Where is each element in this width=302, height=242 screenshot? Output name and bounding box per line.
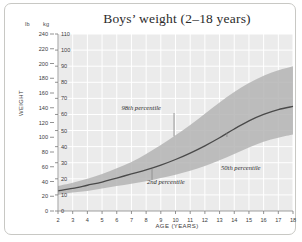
svg-text:50th percentile: 50th percentile: [221, 164, 261, 171]
svg-text:9: 9: [159, 217, 162, 223]
svg-text:200: 200: [39, 61, 48, 67]
svg-text:15: 15: [246, 217, 252, 223]
svg-text:18: 18: [290, 217, 296, 223]
svg-text:14: 14: [231, 217, 237, 223]
svg-text:40: 40: [42, 179, 48, 185]
svg-text:110: 110: [61, 31, 70, 37]
svg-text:80: 80: [42, 149, 48, 155]
svg-text:180: 180: [39, 75, 48, 81]
svg-text:7: 7: [130, 217, 133, 223]
svg-text:50: 50: [61, 128, 67, 134]
svg-text:10: 10: [172, 217, 178, 223]
svg-text:6: 6: [115, 217, 118, 223]
svg-text:5: 5: [101, 217, 104, 223]
svg-text:100: 100: [39, 134, 48, 140]
svg-text:3: 3: [71, 217, 74, 223]
svg-text:140: 140: [39, 105, 48, 111]
figure-frame: Boys’ weight (2–18 years) lb kg WEIGHT A…: [4, 3, 296, 235]
svg-text:20: 20: [42, 193, 48, 199]
svg-text:4: 4: [86, 217, 89, 223]
svg-text:11: 11: [187, 217, 193, 223]
svg-text:60: 60: [61, 111, 67, 117]
svg-text:98th percentile: 98th percentile: [122, 104, 162, 111]
svg-text:120: 120: [39, 120, 48, 126]
svg-text:80: 80: [61, 79, 67, 85]
svg-text:8: 8: [145, 217, 148, 223]
svg-text:100: 100: [61, 47, 70, 53]
svg-text:40: 40: [61, 144, 67, 150]
svg-text:30: 30: [61, 160, 67, 166]
svg-text:90: 90: [61, 63, 67, 69]
svg-text:2nd percentile: 2nd percentile: [147, 178, 185, 185]
svg-text:16: 16: [261, 217, 267, 223]
svg-text:0: 0: [45, 208, 48, 214]
svg-text:13: 13: [216, 217, 222, 223]
x-axis-ticks: 23456789101112131415161718: [56, 211, 296, 223]
svg-text:0: 0: [61, 208, 64, 214]
svg-text:2: 2: [56, 217, 59, 223]
svg-text:17: 17: [275, 217, 281, 223]
svg-text:220: 220: [39, 46, 48, 52]
svg-text:240: 240: [39, 31, 48, 37]
svg-text:10: 10: [61, 192, 67, 198]
svg-text:60: 60: [42, 164, 48, 170]
svg-text:70: 70: [61, 95, 67, 101]
svg-text:20: 20: [61, 176, 67, 182]
growth-chart-plot: 0102030405060708090100110020406080100120…: [5, 4, 297, 236]
svg-text:12: 12: [202, 217, 208, 223]
svg-text:160: 160: [39, 90, 48, 96]
